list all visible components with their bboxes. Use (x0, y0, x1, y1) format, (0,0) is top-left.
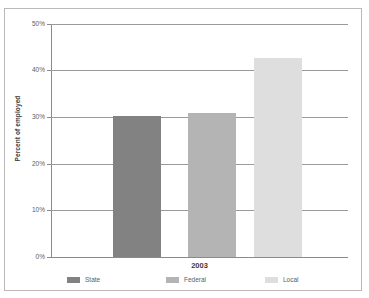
legend-item-federal[interactable]: Federal (150, 277, 249, 284)
legend-label-federal: Federal (184, 277, 206, 284)
bar-local-2003[interactable] (254, 58, 302, 257)
plot-area (51, 24, 348, 257)
legend-swatch-state-icon (67, 277, 80, 283)
gridline-40 (51, 70, 348, 71)
chart-legend: State Federal Local (51, 277, 348, 284)
bar-federal-2003[interactable] (188, 113, 236, 257)
y-tick-label-50: 50% (11, 21, 45, 28)
y-tick-label-10: 10% (11, 207, 45, 214)
legend-swatch-local-icon (265, 277, 278, 283)
y-tick-label-40: 40% (11, 67, 45, 74)
legend-swatch-federal-icon (166, 277, 179, 283)
gridline-50 (51, 24, 348, 25)
legend-label-state: State (85, 277, 100, 284)
bar-state-2003[interactable] (113, 116, 161, 257)
x-axis-category-label: 2003 (51, 261, 348, 270)
legend-label-local: Local (283, 277, 299, 284)
chart-frame: 50% 40% 30% 20% 10% 0% Percent of employ… (4, 8, 362, 291)
legend-item-state[interactable]: State (51, 277, 150, 284)
y-axis-title: Percent of employed (14, 84, 21, 174)
y-axis-tick-labels: 50% 40% 30% 20% 10% 0% (5, 9, 45, 292)
gridline-0 (51, 257, 348, 258)
y-tick-label-0: 0% (11, 254, 45, 261)
legend-item-local[interactable]: Local (249, 277, 348, 284)
